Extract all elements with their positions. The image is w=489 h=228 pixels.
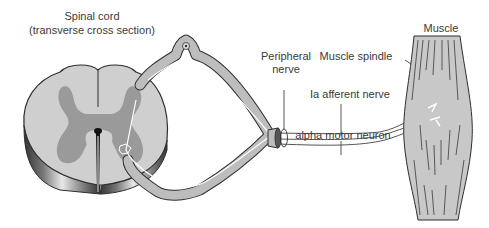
label-ia-afferent: Ia afferent nerve: [310, 88, 390, 100]
muscle: [404, 36, 473, 220]
label-spinal-cord: Spinal cord: [64, 10, 119, 22]
label-alpha-motor: alpha motor neuron: [295, 129, 390, 141]
label-spinal-cord-sub: (transverse cross section): [29, 24, 155, 36]
reflex-diagram: Spinal cord (transverse cross section) P…: [0, 0, 489, 228]
label-muscle: Muscle: [424, 22, 459, 34]
label-muscle-spindle: Muscle spindle: [320, 50, 393, 62]
label-peripheral: Peripheral: [261, 50, 311, 62]
label-peripheral-nerve: nerve: [272, 63, 300, 75]
